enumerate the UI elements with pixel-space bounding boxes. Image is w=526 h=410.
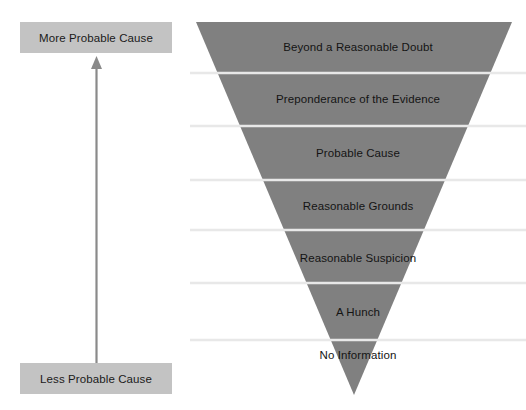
up-arrow-icon xyxy=(80,53,114,364)
more-probable-cause-label-text: More Probable Cause xyxy=(39,32,153,44)
less-probable-cause-label-text: Less Probable Cause xyxy=(40,373,152,385)
pyramid-graphic xyxy=(190,18,526,403)
less-probable-cause-label-box: Less Probable Cause xyxy=(20,363,172,394)
inverted-pyramid: Beyond a Reasonable Doubt Preponderance … xyxy=(190,18,526,403)
diagram-root: More Probable Cause Less Probable Cause … xyxy=(0,0,526,410)
probability-axis-arrow xyxy=(80,53,114,364)
arrow-head xyxy=(91,56,102,69)
more-probable-cause-label-box: More Probable Cause xyxy=(20,22,172,53)
